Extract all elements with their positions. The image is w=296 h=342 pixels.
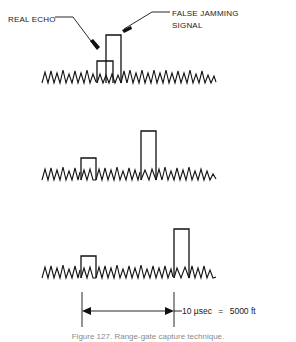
false-jamming-signal-label-line2: SIGNAL — [172, 20, 203, 31]
dimension-time: 10 µsec — [182, 306, 212, 316]
radar-trace-artwork — [0, 0, 296, 342]
dimension-line — [82, 292, 182, 327]
trace-1-capture — [42, 35, 216, 83]
false-jamming-signal-label-line1: FALSE JAMMING — [172, 8, 239, 19]
figure-caption: Figure 127. Range-gate capture technique… — [0, 332, 296, 341]
trace-3-separated — [42, 229, 216, 278]
diagram-canvas: REAL ECHO FALSE JAMMING SIGNAL 10 µsec =… — [0, 0, 296, 342]
real-echo-label: REAL ECHO — [8, 14, 56, 25]
false-jamming-leader — [122, 12, 170, 33]
real-echo-leader — [55, 17, 100, 50]
dimension-distance: 5000 ft — [230, 306, 256, 316]
trace-2-walkoff — [42, 131, 216, 180]
dimension-equals: = — [214, 306, 227, 316]
dimension-label: 10 µsec = 5000 ft — [182, 306, 256, 316]
